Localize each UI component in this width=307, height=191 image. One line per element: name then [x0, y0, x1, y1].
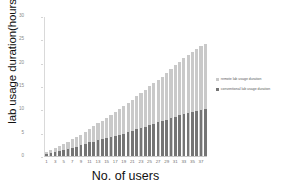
bar-slot [139, 17, 142, 156]
y-tick-mark [41, 157, 43, 158]
bar-conventional-lab-usage [165, 120, 168, 156]
y-tick-mark [41, 64, 43, 65]
y-tick-mark [41, 110, 43, 111]
bar-slot [169, 17, 172, 156]
bar-slot [62, 17, 65, 156]
bar-conventional-lab-usage [105, 138, 108, 156]
bar-conventional-lab-usage [148, 125, 151, 156]
bar-conventional-lab-usage [45, 154, 48, 156]
bar-conventional-lab-usage [114, 136, 117, 156]
x-tick-label: 15 [104, 158, 109, 165]
bar-slot [88, 17, 91, 156]
bar-conventional-lab-usage [84, 144, 87, 156]
x-tick-label: 3 [54, 158, 56, 165]
bar-slot [135, 17, 138, 156]
x-tick-label: 1 [45, 158, 47, 165]
y-tick-label: 20 [0, 60, 24, 66]
legend-label: conventional lab usage duration [221, 87, 270, 92]
bar-slot [157, 17, 160, 156]
y-tick-label: 5 [0, 130, 24, 136]
legend-label: remote lab usage duration [221, 77, 262, 82]
bar-conventional-lab-usage [122, 134, 125, 156]
bar-conventional-lab-usage [80, 145, 83, 156]
bar-conventional-lab-usage [191, 112, 194, 156]
bar-group [45, 17, 207, 156]
bar-slot [195, 17, 198, 156]
bar-conventional-lab-usage [110, 137, 113, 156]
bar-conventional-lab-usage [75, 147, 78, 156]
bar-slot [178, 17, 181, 156]
bar-conventional-lab-usage [97, 140, 100, 156]
bar-slot [75, 17, 78, 156]
bar-conventional-lab-usage [161, 121, 164, 156]
x-tick-label: 21 [130, 158, 135, 165]
bar-conventional-lab-usage [88, 142, 91, 156]
bar-slot [101, 17, 104, 156]
bar-conventional-lab-usage [62, 150, 65, 156]
bar-conventional-lab-usage [140, 128, 143, 156]
bar-slot [54, 17, 57, 156]
bar-slot [114, 17, 117, 156]
bar-slot [84, 17, 87, 156]
x-tick-label: 31 [173, 158, 178, 165]
x-tick-label: 19 [121, 158, 126, 165]
bar-conventional-lab-usage [187, 113, 190, 156]
bar-conventional-lab-usage [118, 135, 121, 156]
bar-slot [144, 17, 147, 156]
bar-slot [152, 17, 155, 156]
bar-conventional-lab-usage [204, 109, 207, 156]
bar-slot [187, 17, 190, 156]
x-tick-label: 23 [139, 158, 144, 165]
bar-conventional-lab-usage [127, 132, 130, 156]
y-tick-label: 15 [0, 83, 24, 89]
x-tick-label: 17 [113, 158, 118, 165]
x-tick-label: 5 [63, 158, 65, 165]
chart-legend: remote lab usage durationconventional la… [216, 77, 304, 97]
bar-conventional-lab-usage [178, 115, 181, 156]
bar-slot [127, 17, 130, 156]
bar-conventional-lab-usage [54, 152, 57, 156]
bar-conventional-lab-usage [144, 127, 147, 156]
bar-slot [199, 17, 202, 156]
legend-item: remote lab usage duration [216, 77, 304, 82]
x-tick-label: 35 [190, 158, 195, 165]
bar-slot [161, 17, 164, 156]
bar-conventional-lab-usage [71, 148, 74, 156]
bar-slot [105, 17, 108, 156]
bar-conventional-lab-usage [174, 117, 177, 156]
plot-area: 051015202530 [44, 17, 207, 157]
bar-slot [109, 17, 112, 156]
bar-conventional-lab-usage [135, 129, 138, 156]
x-tick-label: 33 [181, 158, 186, 165]
x-tick-label: 11 [87, 158, 92, 165]
x-tick-label: 29 [164, 158, 169, 165]
bar-conventional-lab-usage [183, 114, 186, 156]
y-tick-mark [41, 17, 43, 18]
legend-swatch-icon [216, 78, 219, 81]
bar-slot [66, 17, 69, 156]
bar-slot [49, 17, 52, 156]
bar-slot [92, 17, 95, 156]
bar-conventional-lab-usage [50, 153, 53, 156]
bar-conventional-lab-usage [101, 139, 104, 156]
bar-conventional-lab-usage [131, 131, 134, 156]
bar-slot [45, 17, 48, 156]
bar-slot [58, 17, 61, 156]
bar-slot [118, 17, 121, 156]
x-tick-label: 25 [147, 158, 152, 165]
x-axis-title: No. of users [44, 169, 207, 183]
y-axis-title: lab usage duration(hours ) [6, 0, 18, 138]
y-tick-label: 0 [0, 153, 24, 159]
x-tick-label: 9 [80, 158, 82, 165]
bar-slot [165, 17, 168, 156]
legend-swatch-icon [216, 88, 219, 91]
bar-slot [96, 17, 99, 156]
bar-slot [71, 17, 74, 156]
bar-conventional-lab-usage [200, 110, 203, 156]
x-tick-label: 27 [156, 158, 161, 165]
bar-slot [148, 17, 151, 156]
bar-conventional-lab-usage [157, 122, 160, 156]
y-tick-mark [41, 40, 43, 41]
y-tick-label: 10 [0, 106, 24, 112]
x-tick-label: 37 [199, 158, 204, 165]
